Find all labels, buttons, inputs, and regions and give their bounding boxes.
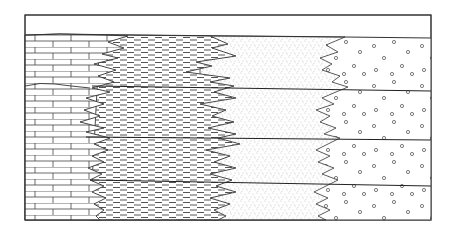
facies-cross-section-diagram: Lateral facies change with intertonguing… bbox=[0, 0, 456, 239]
